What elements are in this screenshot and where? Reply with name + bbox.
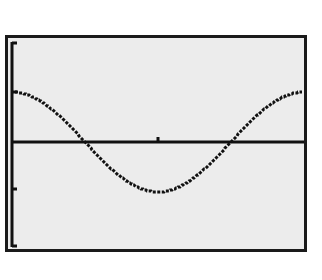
graph-plot: [0, 0, 322, 280]
